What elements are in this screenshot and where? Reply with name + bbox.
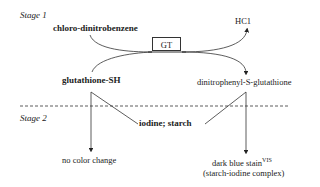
reagent-line-right — [205, 92, 246, 124]
reactant2-curve — [92, 52, 152, 72]
reactant-glutathione: glutathione-SH — [62, 76, 121, 85]
reactant1-curve — [90, 35, 152, 52]
reactant-chloro-dinitrobenzene: chloro-dinitrobenzene — [53, 24, 138, 33]
stage1-label: Stage 1 — [20, 11, 47, 20]
right-result-superscript: VIS — [262, 157, 272, 163]
right-result-label: dark blue stainVIS — [212, 159, 272, 168]
right-result-note: (starch-iodine complex) — [203, 169, 284, 178]
reagent-line-left — [91, 92, 138, 124]
product-arrow — [182, 52, 246, 73]
stage2-label: Stage 2 — [20, 114, 47, 123]
reagent-label: iodine; starch — [139, 119, 192, 128]
byproduct-label: HC1 — [235, 17, 251, 26]
enzyme-box: GT — [152, 37, 181, 51]
product-label: dinitrophenyl-S-glutathione — [197, 78, 291, 87]
right-result-text: dark blue stain — [212, 158, 262, 168]
byproduct-arrow — [182, 30, 247, 52]
left-result-label: no color change — [62, 156, 116, 165]
